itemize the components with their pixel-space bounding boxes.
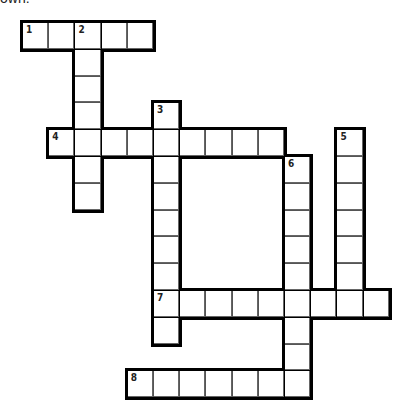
crossword-cell-inner: 3 (154, 103, 179, 129)
crossword-cell-inner (75, 103, 100, 129)
crossword-cell-inner (75, 157, 100, 183)
crossword-cell-inner (180, 371, 205, 397)
crossword-cell-inner (337, 291, 362, 317)
crossword-cell-inner (180, 291, 205, 317)
crossword-cell-inner (154, 237, 179, 263)
crossword-cell-inner (337, 237, 362, 263)
crossword-cell-inner (49, 23, 74, 49)
crossword-cell-inner (285, 237, 310, 263)
crossword-cell-inner: 6 (285, 157, 310, 183)
crossword-cell-inner (75, 77, 100, 103)
crossword-cell-inner (285, 345, 310, 371)
crossword-cell-inner (154, 371, 179, 397)
crossword-cell-inner (206, 291, 231, 317)
crossword-grid: 1237456812374568 (0, 0, 412, 419)
crossword-cell-inner (128, 130, 153, 156)
crossword-cell-inner (285, 184, 310, 210)
crossword-cell-inner (259, 371, 284, 397)
crossword-cell-inner (337, 157, 362, 183)
crossword-cell-inner (75, 50, 100, 76)
crossword-cell-inner: 2 (75, 23, 100, 49)
clue-number-label: 7 (157, 293, 163, 303)
crossword-cell-inner (337, 211, 362, 237)
crossword-cell-inner (233, 371, 258, 397)
clue-number-label: 6 (288, 159, 294, 169)
clue-number-label: 3 (157, 105, 163, 115)
crossword-cell-inner (337, 264, 362, 290)
crossword-cell-inner (154, 184, 179, 210)
crossword-cell-inner (285, 291, 310, 317)
crossword-cell-inner (285, 211, 310, 237)
crossword-cell-inner: 4 (49, 130, 74, 156)
crossword-cell-inner (206, 371, 231, 397)
clue-number-label: 1 (26, 25, 32, 35)
crossword-cell-inner (128, 23, 153, 49)
crossword-cell-inner: 7 (154, 291, 179, 317)
crossword-cell-inner (75, 184, 100, 210)
crossword-cell-inner (154, 211, 179, 237)
crossword-cell-inner (285, 318, 310, 344)
crossword-cell-inner (154, 130, 179, 156)
crossword-cell-inner: 1 (23, 23, 48, 49)
crossword-cell-inner (206, 130, 231, 156)
crossword-cell-inner (102, 130, 127, 156)
crossword-cell-inner (154, 318, 179, 344)
crossword-cell-inner (285, 371, 310, 397)
crossword-cell-inner (233, 130, 258, 156)
crossword-cell-inner: 8 (128, 371, 153, 397)
crossword-cell-inner (285, 264, 310, 290)
crossword-cell-inner (259, 130, 284, 156)
crossword-cell-inner (180, 130, 205, 156)
crossword-cell-inner (311, 291, 336, 317)
crossword-cell-inner (102, 23, 127, 49)
crossword-cell-inner (259, 291, 284, 317)
clue-number-label: 2 (78, 25, 84, 35)
clue-number-label: 5 (340, 132, 346, 142)
crossword-cell-inner: 5 (337, 130, 362, 156)
crossword-cell-inner (337, 184, 362, 210)
crossword-cell-inner (154, 157, 179, 183)
crossword-cell-inner (364, 291, 389, 317)
crossword-cell-inner (154, 264, 179, 290)
crossword-cell-inner (75, 130, 100, 156)
crossword-cell-inner (233, 291, 258, 317)
clue-number-label: 4 (52, 132, 58, 142)
clue-number-label: 8 (131, 373, 137, 383)
